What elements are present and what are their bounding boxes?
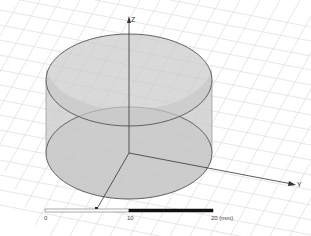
scale-tick-20: 20 (mm)	[211, 215, 233, 221]
y-axis-label: Y	[297, 181, 302, 188]
scale-tick-10: 10	[127, 215, 134, 221]
3d-modeler-viewport[interactable]: Z Y 0 10 20 (mm)	[0, 0, 311, 236]
scale-bar-right-segment	[129, 209, 213, 212]
z-axis-label: Z	[131, 16, 136, 23]
scale-bar-left-segment	[45, 209, 129, 212]
y-axis-arrow-icon	[288, 181, 296, 186]
scale-tick-0: 0	[44, 215, 48, 221]
